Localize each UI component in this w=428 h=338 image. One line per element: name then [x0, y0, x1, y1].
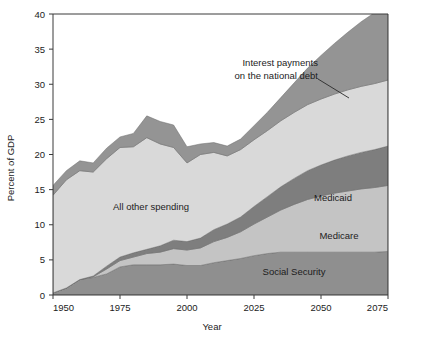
y-tick-label: 40	[34, 9, 45, 20]
y-tick-label: 0	[40, 290, 45, 301]
y-tick-label: 15	[34, 184, 45, 195]
chart-figure: 0510152025303540 19501975200020252050207…	[0, 0, 428, 338]
y-tick-label: 25	[34, 114, 45, 125]
y-tick-label: 35	[34, 44, 45, 55]
stacked-area-chart: 0510152025303540 19501975200020252050207…	[0, 0, 428, 338]
x-tick-label: 2075	[367, 302, 388, 313]
x-tick-label: 2000	[176, 302, 197, 313]
y-tick-label: 30	[34, 79, 45, 90]
callout-line-1: Interest payments	[242, 57, 318, 68]
y-tick-label: 5	[40, 254, 45, 265]
y-tick-label: 20	[34, 149, 45, 160]
x-tick-label: 2025	[243, 302, 264, 313]
series-label-social-security: Social Security	[263, 266, 326, 277]
x-tick-label: 1975	[109, 302, 130, 313]
series-label-all-other-spending: All other spending	[113, 201, 189, 212]
x-tick-label: 1950	[53, 302, 74, 313]
callout-line-2: on the national debt	[235, 70, 319, 81]
series-label-medicaid: Medicaid	[314, 192, 352, 203]
x-axis-title: Year	[202, 321, 221, 332]
series-label-medicare: Medicare	[319, 230, 358, 241]
y-tick-label: 10	[34, 219, 45, 230]
y-axis-title: Percent of GDP	[5, 135, 16, 202]
x-tick-label: 2050	[310, 302, 331, 313]
